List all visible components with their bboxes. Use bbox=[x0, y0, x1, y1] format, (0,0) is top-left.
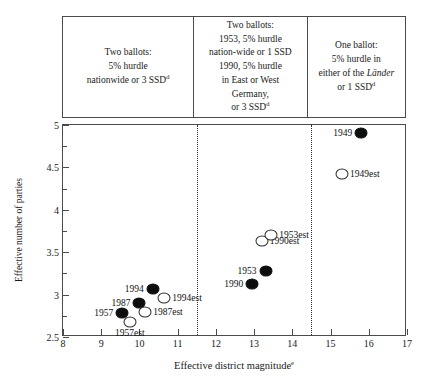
regime-line: Germany, bbox=[209, 88, 292, 102]
regime-cell-two-ballots-nationwide: Two ballots:5% hurdlenationwide or 3 SSD… bbox=[63, 17, 193, 117]
data-point-label-1990: 1990 bbox=[224, 279, 243, 289]
plot-inner: 2.533.544.558910111213141516171957198719… bbox=[63, 125, 405, 335]
data-point-1953[interactable] bbox=[259, 265, 272, 276]
data-point-1953est[interactable] bbox=[265, 230, 278, 241]
regime-line: Two ballots: bbox=[209, 19, 292, 33]
y-axis-tick-label: 3 bbox=[54, 289, 59, 300]
y-axis-tick bbox=[63, 167, 69, 168]
regime-line: Two ballots: bbox=[87, 46, 170, 60]
x-axis-tick-label: 11 bbox=[173, 338, 183, 349]
regime-line: either of the Länder bbox=[318, 67, 394, 81]
y-axis-tick-label: 5 bbox=[54, 120, 59, 131]
data-point-1949est[interactable] bbox=[336, 169, 349, 180]
data-point-label-1949: 1949 bbox=[333, 128, 352, 138]
x-axis-tick bbox=[216, 329, 217, 335]
data-point-label-1949est: 1949est bbox=[350, 169, 380, 179]
regime-line: or 1 SSDd bbox=[318, 81, 394, 95]
y-axis-minor-tick bbox=[63, 189, 67, 190]
regime-line: 1953, 5% hurdle bbox=[209, 33, 292, 47]
y-axis-title: Effective number of parties bbox=[12, 124, 26, 336]
regime-cell-one-ballot: One ballot:5% hurdle ineither of the Län… bbox=[307, 17, 405, 117]
footnote-marker: d bbox=[166, 73, 169, 80]
regime-line: nationwide or 3 SSDd bbox=[87, 74, 170, 88]
x-axis-tick-label: 15 bbox=[326, 338, 336, 349]
data-point-label-1987est: 1987est bbox=[153, 307, 183, 317]
regime-line: 1990, 5% hurdle bbox=[209, 60, 292, 74]
data-point-1990[interactable] bbox=[246, 278, 259, 289]
x-axis-tick bbox=[407, 329, 408, 335]
data-point-1994[interactable] bbox=[146, 283, 159, 294]
data-point-label-1987: 1987 bbox=[111, 298, 130, 308]
data-point-label-1953: 1953 bbox=[238, 266, 257, 276]
x-axis-tick bbox=[331, 329, 332, 335]
regime-text-one-ballot: One ballot:5% hurdle ineither of the Län… bbox=[318, 39, 394, 94]
x-axis-tick bbox=[292, 329, 293, 335]
x-axis-title-superscript: e bbox=[291, 359, 294, 366]
regime-italic-term: Länder bbox=[367, 68, 394, 78]
x-axis-tick bbox=[369, 329, 370, 335]
y-axis-tick-label: 3.5 bbox=[47, 247, 60, 258]
x-axis-tick-label: 10 bbox=[134, 338, 144, 349]
data-point-label-1994est: 1994est bbox=[172, 293, 202, 303]
x-axis-title: Effective district magnitudee bbox=[62, 360, 406, 371]
y-axis-minor-tick bbox=[63, 273, 67, 274]
regime-line: or 3 SSDd bbox=[209, 101, 292, 115]
y-axis-minor-tick bbox=[63, 231, 67, 232]
x-axis-tick-label: 16 bbox=[364, 338, 374, 349]
regime-cell-two-ballots-1953-1990: Two ballots:1953, 5% hurdlenation-wide o… bbox=[193, 17, 306, 117]
regime-divider-line bbox=[311, 125, 312, 335]
data-point-1949[interactable] bbox=[355, 128, 368, 139]
regime-line: 5% hurdle in bbox=[318, 53, 394, 67]
regime-divider-line bbox=[197, 125, 198, 335]
y-axis-tick bbox=[63, 210, 69, 211]
x-axis-title-label: Effective district magnitude bbox=[174, 360, 291, 371]
x-axis-tick-label: 8 bbox=[61, 338, 66, 349]
x-axis-tick-label: 9 bbox=[99, 338, 104, 349]
regime-text-two-ballots-nationwide: Two ballots:5% hurdlenationwide or 3 SSD… bbox=[87, 46, 170, 87]
footnote-marker: d bbox=[266, 100, 269, 107]
data-point-1994est[interactable] bbox=[158, 292, 171, 303]
plot-area: 2.533.544.558910111213141516171957198719… bbox=[62, 124, 406, 336]
regime-line: One ballot: bbox=[318, 39, 394, 53]
regime-header-table: Two ballots:5% hurdlenationwide or 3 SSD… bbox=[62, 16, 406, 118]
y-axis-title-label: Effective number of parties bbox=[14, 178, 24, 282]
data-point-1957est[interactable] bbox=[123, 316, 136, 327]
x-axis-tick bbox=[178, 329, 179, 335]
regime-line: nation-wide or 1 SSD bbox=[209, 46, 292, 60]
data-point-label-1957: 1957 bbox=[94, 308, 113, 318]
regime-text-two-ballots-1953-1990: Two ballots:1953, 5% hurdlenation-wide o… bbox=[209, 19, 292, 115]
y-axis-tick bbox=[63, 252, 69, 253]
x-axis-tick bbox=[101, 329, 102, 335]
data-point-label-1953est: 1953est bbox=[279, 230, 309, 240]
y-axis-tick-label: 2.5 bbox=[47, 332, 60, 343]
y-axis-minor-tick bbox=[63, 316, 67, 317]
x-axis-tick-label: 17 bbox=[402, 338, 412, 349]
x-axis-tick-label: 13 bbox=[249, 338, 259, 349]
x-axis-tick bbox=[63, 329, 64, 335]
data-point-label-1957est: 1957est bbox=[115, 328, 145, 338]
data-point-label-1994: 1994 bbox=[125, 284, 144, 294]
x-axis-tick-label: 14 bbox=[287, 338, 297, 349]
data-point-1987est[interactable] bbox=[139, 306, 152, 317]
regime-line: 5% hurdle bbox=[87, 60, 170, 74]
y-axis-tick-label: 4 bbox=[54, 204, 59, 215]
y-axis-minor-tick bbox=[63, 146, 67, 147]
footnote-marker: d bbox=[372, 80, 375, 87]
y-axis-tick bbox=[63, 125, 69, 126]
y-axis-tick-label: 4.5 bbox=[47, 162, 60, 173]
x-axis-tick-label: 12 bbox=[211, 338, 221, 349]
x-axis-tick bbox=[254, 329, 255, 335]
y-axis-tick bbox=[63, 295, 69, 296]
regime-line: in East or West bbox=[209, 74, 292, 88]
